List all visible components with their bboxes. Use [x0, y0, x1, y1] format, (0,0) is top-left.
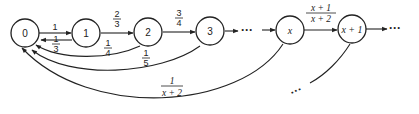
label-1-to-2: 2 3	[113, 9, 121, 29]
label-2-to-3: 3 4	[175, 8, 183, 28]
label-1-to-0: 1 3	[52, 34, 60, 54]
ellipsis-right: ···	[389, 21, 401, 35]
label-0-to-1: 1	[52, 22, 57, 32]
svg-text:1: 1	[170, 76, 175, 86]
node-0: 0	[11, 19, 39, 47]
svg-text:4: 4	[176, 18, 181, 28]
node-1: 1	[72, 19, 100, 47]
svg-text:x: x	[287, 25, 293, 36]
svg-text:3: 3	[207, 26, 213, 37]
svg-text:4: 4	[105, 48, 110, 58]
edge-x1-back	[310, 44, 350, 83]
svg-text:1: 1	[53, 34, 58, 44]
svg-text:5: 5	[143, 58, 148, 68]
ellipsis-bottom: ···	[288, 82, 305, 100]
node-3: 3	[196, 17, 224, 45]
svg-text:x + 2: x + 2	[310, 14, 331, 24]
svg-text:3: 3	[114, 19, 119, 29]
svg-text:3: 3	[176, 8, 181, 18]
label-3-to-0: 1 5	[142, 48, 150, 68]
svg-text:x + 2: x + 2	[161, 88, 182, 98]
ellipsis-middle: ···	[241, 23, 253, 37]
svg-text:0: 0	[22, 28, 28, 39]
node-2: 2	[134, 18, 162, 46]
markov-chain-diagram: ··· ··· ··· 0 1 2 3 x x + 1 1 2 3 3 4 x …	[0, 0, 419, 114]
node-x: x	[276, 16, 304, 44]
label-x-to-0: 1 x + 2	[161, 76, 183, 98]
svg-text:1: 1	[143, 48, 148, 58]
svg-text:x + 1: x + 1	[310, 3, 331, 13]
label-x-to-x1: x + 1 x + 2	[306, 3, 336, 24]
svg-text:2: 2	[145, 27, 151, 38]
svg-text:1: 1	[105, 38, 110, 48]
svg-text:3: 3	[53, 44, 58, 54]
svg-text:x + 1: x + 1	[340, 24, 362, 35]
node-x-plus-1: x + 1	[338, 15, 366, 43]
svg-text:1: 1	[83, 28, 89, 39]
edge-x-to-0	[22, 44, 283, 98]
svg-text:2: 2	[114, 9, 119, 19]
